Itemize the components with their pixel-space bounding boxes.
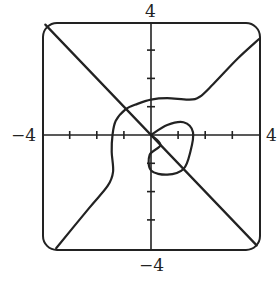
closed-loop bbox=[149, 122, 194, 175]
chart-series bbox=[45, 25, 259, 249]
x-min-label: −4 bbox=[11, 127, 36, 144]
y-max-label: 4 bbox=[145, 3, 156, 20]
x-max-label: 4 bbox=[266, 127, 277, 144]
chart-plot bbox=[0, 0, 278, 292]
y-min-label: −4 bbox=[139, 257, 164, 274]
